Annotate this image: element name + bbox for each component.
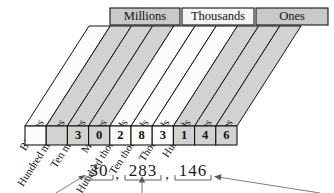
place-value-diagram: Millions Thousands Ones (0, 0, 334, 193)
digit-value-hundred-thousands: 2 (117, 128, 123, 142)
digit-cell-billions (25, 126, 46, 145)
numeral-group-thousands: 283 (129, 161, 158, 180)
digit-cell-hundred-millions (46, 126, 67, 145)
period-header-thousands: Thousands (182, 8, 254, 25)
digit-value-thousands: 3 (160, 128, 166, 142)
digit-value-hundreds: 1 (181, 128, 187, 142)
arrow-to-ones-group (214, 174, 320, 193)
arrow-head-ones (214, 174, 221, 180)
numeral-expression: 30 , 283 , 146 (85, 161, 211, 183)
arrow-line-ones (218, 177, 320, 193)
digit-cell-row: 3 0 2 8 3 1 4 6 (25, 126, 237, 145)
period-label-ones: Ones (279, 9, 305, 23)
numeral-separator-2: , (165, 166, 169, 182)
digit-value-ones: 6 (223, 128, 229, 142)
place-value-chart: Millions Thousands Ones (0, 0, 334, 193)
numeral-separator-1: , (115, 166, 119, 182)
period-header-millions: Millions (110, 8, 180, 25)
digit-value-ten-millions: 3 (75, 128, 81, 142)
numeral-group-millions: 30 (90, 161, 109, 180)
digit-value-ten-thousands: 8 (138, 128, 144, 142)
period-label-millions: Millions (124, 9, 167, 23)
numeral-group-ones: 146 (179, 161, 208, 180)
period-header-ones: Ones (256, 8, 328, 25)
period-header-row: Millions Thousands Ones (110, 8, 328, 25)
period-label-thousands: Thousands (191, 9, 245, 23)
slanted-column-bands (25, 26, 301, 126)
digit-value-millions: 0 (96, 128, 102, 142)
digit-value-tens: 4 (202, 128, 209, 142)
